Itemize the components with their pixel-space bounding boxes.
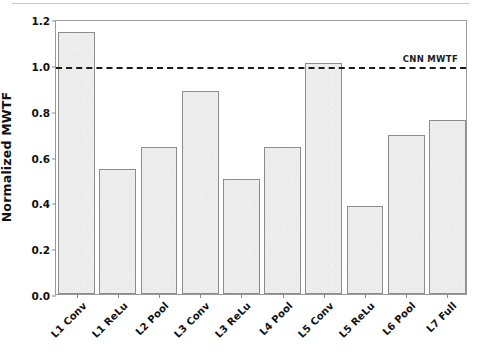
y-axis-tick-label: 0.2 bbox=[31, 244, 56, 256]
x-axis-tick-label-l2-pool: L2 Pool bbox=[133, 300, 170, 337]
figure-container: Normalized MWTF 0.00.20.40.60.81.01.2L1 … bbox=[0, 0, 480, 363]
x-axis-tick-mark bbox=[159, 294, 160, 298]
figure-caption bbox=[26, 354, 456, 363]
bar-l4-pool bbox=[264, 147, 301, 294]
y-axis-tick-label: 0.4 bbox=[31, 198, 56, 210]
x-axis-tick-label-l1-conv: L1 Conv bbox=[49, 300, 89, 340]
bar-l3-relu bbox=[223, 179, 260, 294]
x-axis-tick-label-l7-full: L7 Full bbox=[425, 300, 460, 335]
x-axis-tick-mark bbox=[324, 294, 325, 298]
x-axis-tick-mark bbox=[283, 294, 284, 298]
y-axis-tick-label: 0.6 bbox=[31, 153, 56, 165]
y-axis-tick-label: 0.0 bbox=[31, 290, 56, 302]
x-axis-tick-label-l6-pool: L6 Pool bbox=[380, 300, 417, 337]
bar-l7-full bbox=[429, 120, 466, 294]
y-axis-label: Normalized MWTF bbox=[0, 92, 14, 223]
bar-l1-relu bbox=[99, 169, 136, 294]
x-axis-tick-label-l5-conv: L5 Conv bbox=[296, 300, 336, 340]
x-axis-tick-mark bbox=[406, 294, 407, 298]
x-axis-tick-label-l5-relu: L5 ReLu bbox=[337, 300, 377, 340]
bar-l2-pool bbox=[141, 147, 178, 294]
bar-l6-pool bbox=[388, 135, 425, 294]
bar-l3-conv bbox=[182, 91, 219, 294]
y-axis-tick-label: 0.8 bbox=[31, 107, 56, 119]
plot-inner: 0.00.20.40.60.81.01.2L1 ConvL1 ReLuL2 Po… bbox=[56, 21, 466, 294]
reference-line-cnn-mwtf bbox=[56, 67, 466, 69]
x-axis-tick-mark bbox=[365, 294, 366, 298]
plot-area: 0.00.20.40.60.81.01.2L1 ConvL1 ReLuL2 Po… bbox=[55, 20, 467, 295]
x-axis-tick-mark bbox=[200, 294, 201, 298]
y-axis-tick-label: 1.2 bbox=[31, 15, 56, 27]
top-divider-rule bbox=[12, 3, 470, 4]
x-axis-tick-mark bbox=[447, 294, 448, 298]
x-axis-tick-label-l3-relu: L3 ReLu bbox=[213, 300, 253, 340]
reference-line-label: CNN MWTF bbox=[403, 54, 458, 64]
x-axis-tick-mark bbox=[118, 294, 119, 298]
bar-l5-relu bbox=[347, 206, 384, 294]
x-axis-tick-label-l3-conv: L3 Conv bbox=[172, 300, 212, 340]
x-axis-tick-label-l1-relu: L1 ReLu bbox=[90, 300, 130, 340]
y-axis-tick-label: 1.0 bbox=[31, 61, 56, 73]
bar-l5-conv bbox=[305, 63, 342, 294]
bar-l1-conv bbox=[58, 32, 95, 294]
x-axis-tick-mark bbox=[241, 294, 242, 298]
x-axis-tick-label-l4-pool: L4 Pool bbox=[257, 300, 294, 337]
x-axis-tick-mark bbox=[77, 294, 78, 298]
